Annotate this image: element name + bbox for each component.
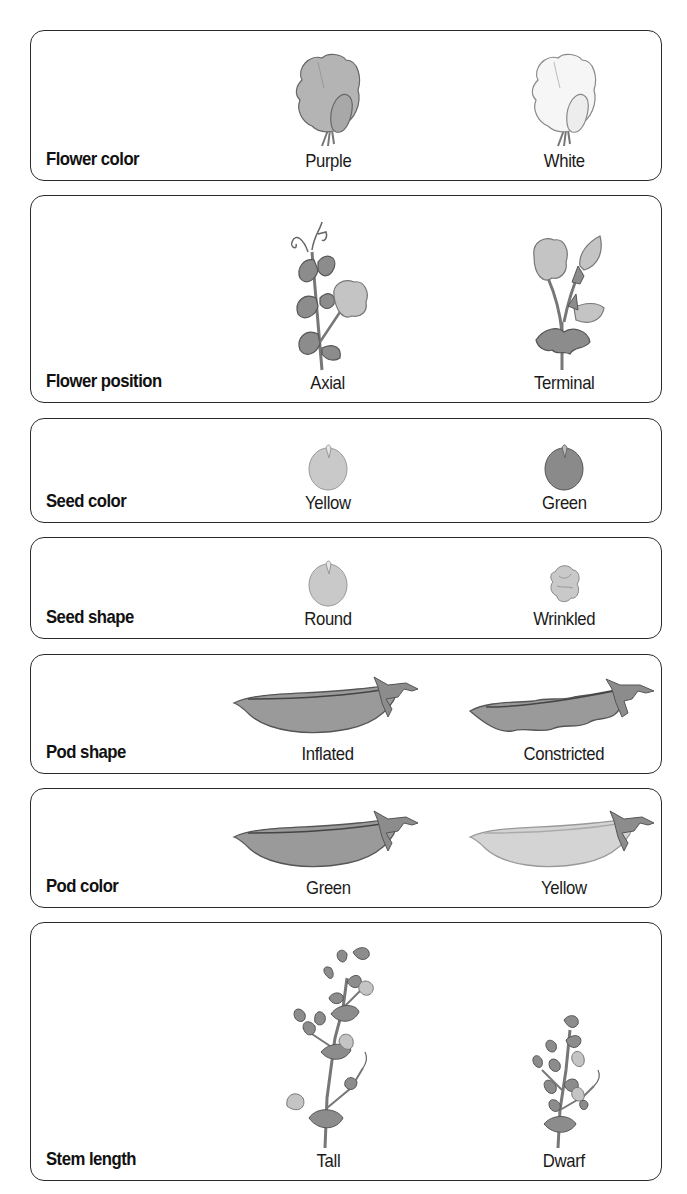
trait-label: Stem length xyxy=(46,1148,136,1170)
variant-axial: Axial xyxy=(228,212,428,394)
variant-green-pod: Green xyxy=(228,809,428,899)
trait-label: Pod color xyxy=(46,875,118,897)
variant-label: Green xyxy=(306,877,351,899)
variant-wrinkled-seed: Wrinkled xyxy=(464,558,664,630)
variant-inflated-pod: Inflated xyxy=(228,675,428,765)
variant-label: Yellow xyxy=(541,877,587,899)
variant-label: Axial xyxy=(311,372,345,394)
variant-label: Tall xyxy=(316,1150,340,1172)
variant-label: Dwarf xyxy=(543,1150,585,1172)
trait-label: Flower position xyxy=(46,370,162,392)
trait-panel-stem-length: Stem length Tall xyxy=(30,922,662,1181)
variant-purple: Purple xyxy=(228,50,428,172)
purple-flower-icon xyxy=(288,50,368,150)
variant-label: Constricted xyxy=(524,743,605,765)
variant-label: Inflated xyxy=(302,743,354,765)
variant-terminal: Terminal xyxy=(464,222,664,394)
trait-label: Flower color xyxy=(46,148,139,170)
variant-label: Round xyxy=(304,608,352,630)
inflated-pod-icon xyxy=(228,675,428,743)
trait-panel-flower-position: Flower position Axial Terminal xyxy=(30,195,662,403)
variant-constricted-pod: Constricted xyxy=(464,675,664,765)
variant-white: White xyxy=(464,50,664,172)
round-seed-icon xyxy=(303,558,353,608)
variant-label: Purple xyxy=(305,150,351,172)
trait-panel-pod-color: Pod color Green Yellow xyxy=(30,788,662,908)
variant-tall-plant: Tall xyxy=(228,938,428,1172)
variant-label: Green xyxy=(542,492,587,514)
trait-panel-flower-color: Flower color Purple White xyxy=(30,30,662,181)
variant-yellow-seed: Yellow xyxy=(228,442,428,514)
variant-label: Yellow xyxy=(305,492,351,514)
dwarf-plant-icon xyxy=(514,1010,614,1150)
yellow-pod-icon xyxy=(464,809,664,877)
constricted-pod-icon xyxy=(464,675,664,743)
white-flower-icon xyxy=(524,50,604,150)
variant-dwarf-plant: Dwarf xyxy=(464,1010,664,1172)
terminal-flower-plant-icon xyxy=(514,222,614,372)
tall-plant-icon xyxy=(273,938,383,1150)
green-pod-icon xyxy=(228,809,428,877)
variant-round-seed: Round xyxy=(228,558,428,630)
trait-label: Pod shape xyxy=(46,741,126,763)
yellow-seed-icon xyxy=(303,442,353,492)
variant-green-seed: Green xyxy=(464,442,664,514)
trait-panel-pod-shape: Pod shape Inflated Constricted xyxy=(30,654,662,774)
variant-label: White xyxy=(543,150,584,172)
trait-label: Seed color xyxy=(46,490,126,512)
axial-flower-plant-icon xyxy=(278,212,378,372)
variant-label: Wrinkled xyxy=(533,608,595,630)
variant-label: Terminal xyxy=(534,372,594,394)
wrinkled-seed-icon xyxy=(539,558,589,608)
trait-panel-seed-shape: Seed shape Round Wrinkled xyxy=(30,537,662,639)
trait-label: Seed shape xyxy=(46,606,134,628)
variant-yellow-pod: Yellow xyxy=(464,809,664,899)
green-seed-icon xyxy=(539,442,589,492)
trait-panel-seed-color: Seed color Yellow Green xyxy=(30,418,662,523)
